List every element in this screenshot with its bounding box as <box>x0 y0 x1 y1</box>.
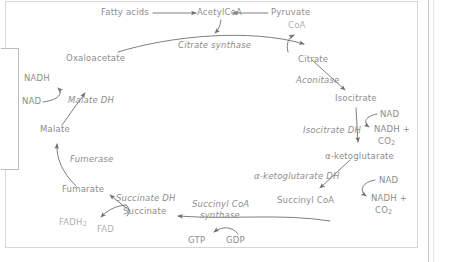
label-enzyme-alpha-ketoglutarate-dh: α-ketoglutarate DH <box>254 172 340 181</box>
label-enzyme-citrate-synthase: Citrate synthase <box>178 41 251 50</box>
label-nad-akg: NAD <box>379 176 398 185</box>
label-oxaloacetate: Oxaloacetate <box>66 54 125 63</box>
label-citrate: Citrate <box>298 55 328 64</box>
label-fadh2-text: FADH <box>59 217 83 227</box>
arrow-coa-release <box>287 35 294 52</box>
label-pyruvate: Pyruvate <box>271 8 310 17</box>
label-nadh-isocitrate-co: CO <box>378 136 391 146</box>
label-enzyme-isocitrate-dh: Isocitrate DH <box>303 126 361 135</box>
label-nadh-isocitrate-subscript: 2 <box>391 139 395 147</box>
label-enzyme-malate-dh: Malate DH <box>68 96 114 105</box>
label-succinyl-coa: Succinyl CoA <box>277 196 334 205</box>
label-enzyme-succinyl-coa-synthase-line1: Succinyl CoA <box>192 200 249 209</box>
label-nadh-akg-co: CO <box>375 205 388 215</box>
arrow-acetylcoa-to-arc <box>215 20 221 33</box>
label-fadh2: FADH2 <box>59 218 87 228</box>
label-alpha-ketoglutarate: α-ketoglutarate <box>325 152 394 161</box>
label-isocitrate: Isocitrate <box>335 94 377 103</box>
label-nad-isocitrate: NAD <box>380 110 399 119</box>
label-gdp: GDP <box>226 236 245 245</box>
label-gtp: GTP <box>188 236 205 245</box>
arrow-nad-to-nadh-malate <box>43 88 60 102</box>
label-fadh2-subscript: 2 <box>83 220 87 228</box>
label-nadh-akg-line1: NADH + <box>371 194 407 203</box>
arrow-gdp-to-gtp <box>214 228 238 234</box>
label-nadh-isocitrate-line1: NADH + <box>374 125 410 134</box>
label-enzyme-aconitase: Aconitase <box>296 76 339 85</box>
label-enzyme-succinyl-coa-synthase-line2: synthase <box>200 211 240 220</box>
arrow-fumarate-to-malate <box>57 144 76 186</box>
label-nadh-akg-subscript: 2 <box>388 208 392 216</box>
label-succinate: Succinate <box>123 207 166 216</box>
label-enzyme-succinate-dh: Succinate DH <box>116 194 176 203</box>
label-coa: CoA <box>288 21 306 30</box>
krebs-cycle-diagram-page: Fatty acids AcetylCoA Pyruvate CoA Citra… <box>0 0 453 262</box>
label-acetyl-coa: AcetylCoA <box>197 8 242 17</box>
label-nad-malate: NAD <box>22 97 41 106</box>
label-nadh-malate: NADH <box>24 74 50 83</box>
label-enzyme-fumerase: Fumerase <box>70 155 113 164</box>
label-nadh-akg-line2: CO2 <box>375 206 392 216</box>
label-fad: FAD <box>97 225 114 234</box>
label-fatty-acids: Fatty acids <box>101 8 149 17</box>
label-nadh-isocitrate-line2: CO2 <box>378 137 395 147</box>
label-malate: Malate <box>40 125 70 134</box>
label-fumarate: Fumarate <box>62 185 104 194</box>
